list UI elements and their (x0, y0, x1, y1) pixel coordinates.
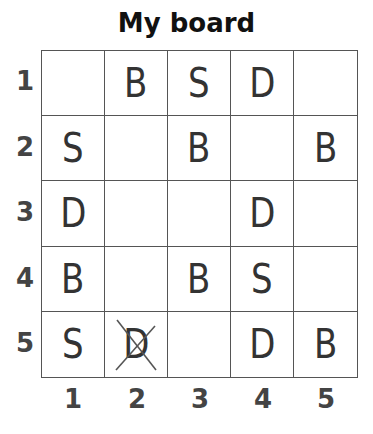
cell-r5-c4[interactable]: D (231, 312, 294, 377)
cell-r4-c3[interactable]: B (168, 247, 231, 312)
cell-letter: D (249, 321, 275, 367)
col-label-3: 3 (180, 384, 220, 414)
cell-letter: S (62, 321, 84, 367)
cell-r1-c5[interactable] (294, 51, 357, 116)
cell-r5-c1[interactable]: S (42, 312, 105, 377)
cell-r3-c3[interactable] (168, 181, 231, 246)
cell-letter: B (124, 60, 147, 106)
board-grid: B S D S B B D D B B S S D D B (41, 50, 358, 378)
cell-r2-c5[interactable]: B (294, 116, 357, 181)
col-label-5: 5 (306, 384, 346, 414)
cell-r5-c2[interactable]: D (105, 312, 168, 377)
cell-letter: S (188, 60, 210, 106)
col-label-1: 1 (53, 384, 93, 414)
col-label-4: 4 (243, 384, 283, 414)
cell-letter: S (251, 256, 273, 302)
cell-r4-c1[interactable]: B (42, 247, 105, 312)
cell-letter: S (62, 125, 84, 171)
cell-letter: D (249, 190, 275, 236)
cell-r2-c1[interactable]: S (42, 116, 105, 181)
cell-letter: D (249, 60, 275, 106)
board-title: My board (0, 8, 373, 38)
cell-r2-c2[interactable] (105, 116, 168, 181)
cell-r3-c4[interactable]: D (231, 181, 294, 246)
cell-r4-c4[interactable]: S (231, 247, 294, 312)
cell-r3-c1[interactable]: D (42, 181, 105, 246)
row-label-4: 4 (14, 263, 36, 293)
cell-r5-c5[interactable]: B (294, 312, 357, 377)
cell-r5-c3[interactable] (168, 312, 231, 377)
row-label-2: 2 (14, 132, 36, 162)
col-label-2: 2 (117, 384, 157, 414)
cell-r4-c5[interactable] (294, 247, 357, 312)
cell-r2-c3[interactable]: B (168, 116, 231, 181)
cell-r1-c3[interactable]: S (168, 51, 231, 116)
cell-r1-c2[interactable]: B (105, 51, 168, 116)
row-label-3: 3 (14, 197, 36, 227)
cell-r1-c4[interactable]: D (231, 51, 294, 116)
cell-letter: B (61, 256, 84, 302)
cell-letter: B (187, 256, 210, 302)
row-label-1: 1 (14, 66, 36, 96)
cell-letter: B (314, 125, 337, 171)
cell-r4-c2[interactable] (105, 247, 168, 312)
row-label-5: 5 (14, 328, 36, 358)
cell-letter: B (314, 321, 337, 367)
cell-letter: D (60, 190, 86, 236)
cell-r3-c5[interactable] (294, 181, 357, 246)
cell-letter: B (187, 125, 210, 171)
cell-letter: D (123, 321, 149, 367)
cell-r3-c2[interactable] (105, 181, 168, 246)
cell-r2-c4[interactable] (231, 116, 294, 181)
cell-r1-c1[interactable] (42, 51, 105, 116)
